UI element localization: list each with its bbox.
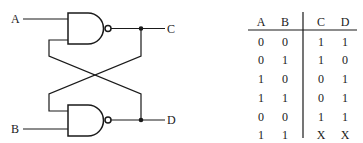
diagram-canvas: A B C D ABCD 0011011010011101001111XX — [0, 0, 363, 143]
table-cell-c: 1 — [318, 53, 324, 67]
table-cell-b: 0 — [282, 72, 288, 86]
table-row: 11XX — [258, 128, 350, 142]
table-cell-b: 0 — [282, 110, 288, 124]
table-cell-d: 1 — [342, 35, 348, 49]
top-nand-bubble — [105, 26, 111, 32]
label-d: D — [167, 113, 176, 127]
label-b: B — [11, 122, 19, 136]
table-cell-b: 0 — [282, 35, 288, 49]
table-cell-d: 1 — [342, 91, 348, 105]
table-cell-c: X — [317, 128, 326, 142]
table-cell-a: 1 — [258, 128, 264, 142]
table-cell-c: 0 — [318, 72, 324, 86]
table-cell-d: 0 — [342, 53, 348, 67]
bottom-nand-gate — [68, 105, 103, 136]
table-cell-b: 1 — [282, 91, 288, 105]
table-cell-d: 1 — [342, 72, 348, 86]
table-header-d: D — [341, 15, 350, 29]
table-body: 0011011010011101001111XX — [258, 35, 350, 142]
table-cell-c: 1 — [318, 35, 324, 49]
table-header-a: A — [257, 15, 266, 29]
label-a: A — [11, 12, 20, 26]
truth-table: ABCD 0011011010011101001111XX — [248, 12, 357, 142]
table-cell-a: 1 — [258, 72, 264, 86]
table-cell-a: 0 — [258, 35, 264, 49]
bottom-nand-bubble — [105, 117, 111, 123]
table-cell-b: 1 — [282, 128, 288, 142]
table-cell-a: 1 — [258, 91, 264, 105]
table-cell-c: 0 — [318, 91, 324, 105]
table-cell-d: X — [341, 128, 350, 142]
junction-d-dot — [139, 118, 144, 123]
table-header-c: C — [317, 15, 325, 29]
table-header-b: B — [281, 15, 289, 29]
table-cell-a: 0 — [258, 53, 264, 67]
table-cell-b: 1 — [282, 53, 288, 67]
label-c: C — [167, 22, 175, 36]
table-cell-d: 1 — [342, 110, 348, 124]
table-cell-c: 1 — [318, 110, 324, 124]
table-cell-a: 0 — [258, 110, 264, 124]
nand-latch-circuit: A B C D — [11, 12, 176, 136]
top-nand-gate — [68, 13, 104, 44]
